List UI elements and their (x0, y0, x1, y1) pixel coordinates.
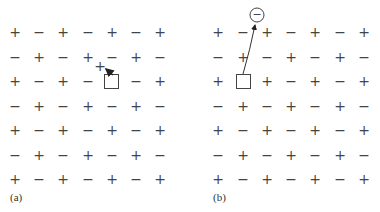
jump-arrow-b (0, 0, 380, 212)
panel-b: +−+−+−+−+−+−+−++−+−+−+−+−+−+−+−+−+−+−+−+… (0, 0, 190, 212)
panel-label-b: (b) (213, 191, 226, 203)
surface-anion: − (250, 8, 264, 22)
